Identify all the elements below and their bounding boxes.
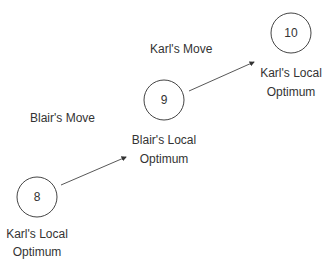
node-9-value: 9: [144, 91, 184, 109]
node-9-label-line1: Blair's Local: [124, 131, 204, 149]
blairs-move-arrow: [61, 157, 126, 185]
blairs-move-label: Blair's Move: [30, 109, 95, 127]
node-10-label-line1: Karl's Local: [251, 64, 326, 82]
node-9-label-line2: Optimum: [124, 150, 204, 168]
karls-move-label: Karl's Move: [150, 40, 212, 58]
node-8-label-line1: Karl's Local: [0, 225, 77, 243]
node-8-label-line2: Optimum: [0, 243, 77, 261]
node-8-value: 8: [17, 188, 57, 206]
node-10-label-line2: Optimum: [251, 83, 326, 101]
karls-move-arrow: [189, 62, 254, 91]
node-10-value: 10: [271, 24, 311, 42]
